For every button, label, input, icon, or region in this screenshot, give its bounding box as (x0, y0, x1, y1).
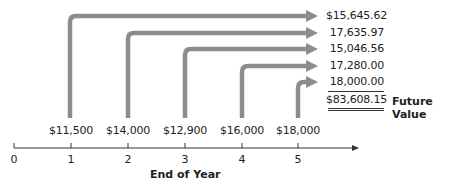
future-value-total: $83,608.15 (326, 94, 384, 106)
future-value-2: 17,635.97 (326, 27, 384, 39)
tick-4: 4 (232, 153, 252, 166)
cash-flow-5: $18,000 (270, 124, 326, 137)
tick-0: 0 (4, 153, 24, 166)
cash-flow-4: $16,000 (214, 124, 270, 137)
future-value-3: 15,046.56 (326, 43, 384, 55)
arrowhead-icon (306, 76, 318, 88)
axis-label: End of Year (150, 168, 221, 181)
arrow-year-2 (128, 33, 308, 118)
double-underline (328, 110, 384, 111)
future-value-label: Future Value (392, 95, 469, 121)
double-underline (328, 108, 384, 109)
cash-flow-1: $11,500 (43, 124, 99, 137)
arrowhead-icon (306, 27, 318, 39)
arrowhead-icon (306, 43, 318, 55)
arrowhead-icon (306, 10, 318, 22)
axis-arrowhead-icon (352, 145, 359, 151)
tick-1: 1 (61, 153, 81, 166)
future-value-4: 17,280.00 (326, 60, 384, 72)
tick-5: 5 (288, 153, 308, 166)
cash-flow-2: $14,000 (100, 124, 156, 137)
tick-2: 2 (118, 153, 138, 166)
arrow-year-3 (185, 49, 308, 118)
tick-3: 3 (175, 153, 195, 166)
future-value-1: $15,645.62 (326, 10, 384, 22)
sum-underline (328, 91, 384, 92)
future-value-5: 18,000.00 (326, 76, 384, 88)
cash-flow-3: $12,900 (157, 124, 213, 137)
arrowhead-icon (306, 60, 318, 72)
